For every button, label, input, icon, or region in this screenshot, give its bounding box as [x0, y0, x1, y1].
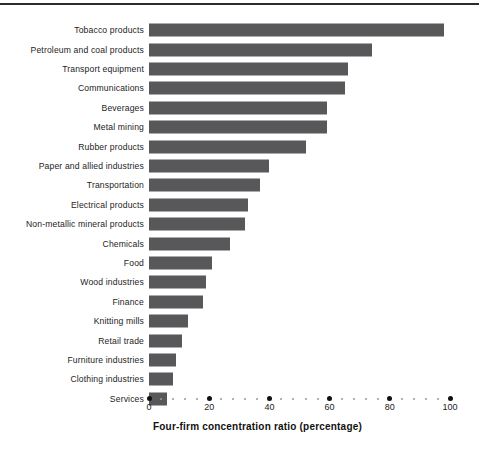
bar-track: [149, 237, 230, 250]
x-axis-tick-label: 40: [264, 403, 274, 412]
bar-category-label: Chemicals: [103, 239, 144, 248]
x-axis-major-tick: [147, 396, 152, 401]
bar-category-label: Tobacco products: [74, 26, 144, 35]
bar-row: Paper and allied industries: [0, 156, 479, 175]
x-axis-major-tick: [327, 396, 332, 401]
bar-row: Tobacco products: [0, 21, 479, 40]
x-axis-major-tick: [387, 396, 392, 401]
x-axis: 020406080100: [0, 396, 479, 410]
bar-track: [149, 276, 206, 289]
bar-row: Communications: [0, 79, 479, 98]
x-axis-major-tick: [207, 396, 212, 401]
x-axis-minor-tick: [256, 398, 258, 400]
bar-row: Retail trade: [0, 331, 479, 350]
x-axis-minor-tick: [377, 398, 379, 400]
x-axis-minor-tick: [244, 398, 246, 400]
x-axis-minor-tick: [292, 398, 294, 400]
bar-category-label: Electrical products: [71, 200, 144, 209]
x-axis-tick-label: 80: [385, 403, 395, 412]
bar-row: Chemicals: [0, 234, 479, 253]
x-axis-minor-tick: [305, 398, 307, 400]
bar-track: [149, 159, 269, 172]
x-axis-minor-tick: [353, 398, 355, 400]
bar-row: Rubber products: [0, 137, 479, 156]
bar-category-label: Petroleum and coal products: [31, 45, 144, 54]
bar-category-label: Clothing industries: [70, 375, 144, 384]
bar: [149, 218, 245, 231]
x-axis-minor-tick: [425, 398, 427, 400]
x-axis-major-tick: [267, 396, 272, 401]
bar: [149, 373, 173, 386]
bar-track: [149, 295, 203, 308]
x-axis-minor-tick: [413, 398, 415, 400]
x-axis-tick-label: 60: [325, 403, 335, 412]
x-axis-minor-tick: [437, 398, 439, 400]
bar-category-label: Transportation: [87, 181, 144, 190]
bar-row: Non-metallic mineral products: [0, 215, 479, 234]
bar: [149, 315, 188, 328]
x-axis-minor-tick: [280, 398, 282, 400]
x-axis-minor-tick: [401, 398, 403, 400]
x-axis-minor-tick: [172, 398, 174, 400]
bar-row: Transportation: [0, 176, 479, 195]
bar-row: Furniture industries: [0, 350, 479, 369]
bar-category-label: Paper and allied industries: [39, 162, 144, 171]
bar-category-label: Beverages: [102, 103, 144, 112]
bar-track: [149, 140, 306, 153]
bar: [149, 101, 327, 114]
bar-row: Electrical products: [0, 195, 479, 214]
bar-category-label: Knitting mills: [94, 317, 144, 326]
x-axis-minor-tick: [341, 398, 343, 400]
bar-track: [149, 43, 372, 56]
bar-row: Knitting mills: [0, 312, 479, 331]
x-axis-minor-tick: [232, 398, 234, 400]
bar: [149, 295, 203, 308]
chart-figure: Tobacco productsPetroleum and coal produ…: [0, 0, 479, 453]
bar-category-label: Communications: [78, 84, 144, 93]
x-axis-tick-label: 20: [204, 403, 214, 412]
bar: [149, 43, 372, 56]
bar-row: Finance: [0, 292, 479, 311]
bar-category-label: Finance: [112, 297, 144, 306]
bar-track: [149, 373, 173, 386]
bar: [149, 179, 260, 192]
bar-category-label: Furniture industries: [67, 356, 144, 365]
x-axis-tick-label: 0: [146, 403, 151, 412]
bar-category-label: Non-metallic mineral products: [26, 220, 144, 229]
bar: [149, 237, 230, 250]
x-axis-minor-tick: [196, 398, 198, 400]
x-axis-minor-tick: [220, 398, 222, 400]
bar-track: [149, 101, 327, 114]
bar-track: [149, 198, 248, 211]
bar: [149, 353, 176, 366]
bar: [149, 198, 248, 211]
x-axis-tick-label: 100: [442, 403, 457, 412]
bar: [149, 159, 269, 172]
bar-row: Wood industries: [0, 273, 479, 292]
bar-row: Petroleum and coal products: [0, 40, 479, 59]
bar: [149, 24, 444, 37]
bar-track: [149, 121, 327, 134]
bar: [149, 82, 345, 95]
bar: [149, 334, 182, 347]
bar-category-label: Metal mining: [93, 123, 144, 132]
bar-track: [149, 82, 345, 95]
bar-row: Metal mining: [0, 118, 479, 137]
bar-category-label: Retail trade: [98, 336, 144, 345]
bar: [149, 256, 212, 269]
bar-track: [149, 62, 348, 75]
bar-row: Clothing industries: [0, 370, 479, 389]
x-axis-title: Four-firm concentration ratio (percentag…: [153, 421, 362, 432]
x-axis-major-tick: [448, 396, 453, 401]
x-axis-minor-tick: [365, 398, 367, 400]
bar-row: Transport equipment: [0, 59, 479, 78]
x-axis-minor-tick: [317, 398, 319, 400]
bar: [149, 62, 348, 75]
bar-row: Food: [0, 253, 479, 272]
bar: [149, 276, 206, 289]
bar-track: [149, 256, 212, 269]
bar-track: [149, 218, 245, 231]
bar-track: [149, 334, 182, 347]
bar-track: [149, 353, 176, 366]
bar-category-label: Food: [124, 259, 144, 268]
